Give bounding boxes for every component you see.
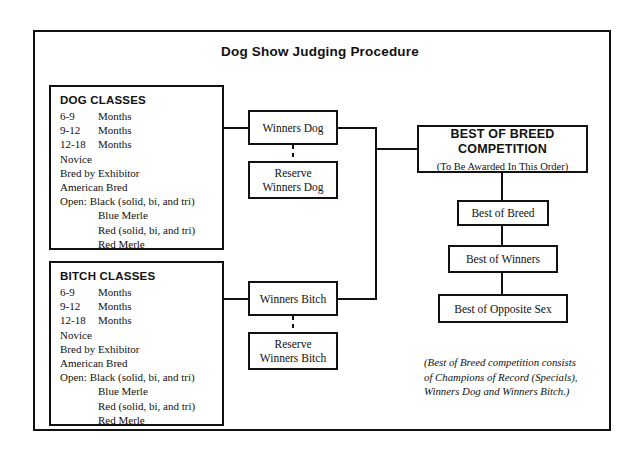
bitch-classes-item-label: Months (98, 286, 132, 298)
dog-classes-header: DOG CLASSES (60, 94, 213, 106)
bitch-classes-item-label: American Bred (60, 357, 128, 369)
dog-classes-item: 9-12Months (60, 123, 213, 137)
bitch-classes-header: BITCH CLASSES (60, 270, 213, 282)
page-title: Dog Show Judging Procedure (0, 44, 640, 59)
bitch-classes-item: Bred by Exhibitor (60, 342, 213, 356)
dog-classes-item-label: Months (98, 138, 132, 150)
connector-winners-dog-to-trunk (338, 127, 377, 129)
best-of-breed-box: Best of Breed (457, 200, 549, 226)
dog-classes-open-sub: Red (solid, bi, and tri) (60, 223, 213, 237)
best-of-winners-label: Best of Winners (466, 252, 540, 266)
bitch-classes-item-label: Months (98, 314, 132, 326)
reserve-winners-dog-label-line1: Reserve (262, 166, 323, 180)
connector-dog-classes-to-winners-dog (224, 127, 249, 129)
dog-classes-item-label: Bred by Exhibitor (60, 167, 139, 179)
connector-winners-bitch-to-reserve (292, 316, 294, 332)
dog-classes-item-age: 9-12 (60, 123, 98, 137)
dog-classes-item: 12-18Months (60, 137, 213, 151)
dog-classes-open-sub: Blue Merle (60, 208, 213, 222)
connector-bitch-classes-to-winners-bitch (224, 298, 249, 300)
dog-classes-item: Bred by Exhibitor (60, 166, 213, 180)
reserve-winners-bitch-label-line1: Reserve (260, 337, 326, 351)
connector-winners-bitch-to-trunk (338, 298, 377, 300)
bitch-classes-open-sub: Red (solid, bi, and tri) (60, 399, 213, 413)
reserve-winners-bitch-label-line2: Winners Bitch (260, 351, 326, 365)
dog-classes-item: American Bred (60, 180, 213, 194)
connector-bobc-to-best-of-breed (501, 173, 503, 200)
best-of-opposite-sex-label: Best of Opposite Sex (454, 302, 551, 316)
bob-title-line1: BEST OF BREED (451, 127, 555, 141)
winners-dog-box: Winners Dog (248, 110, 338, 145)
winners-bitch-label: Winners Bitch (260, 292, 326, 306)
bob-title-line2: COMPETITION (458, 142, 547, 156)
bitch-classes-item: American Bred (60, 356, 213, 370)
dog-classes-item-label: Months (98, 124, 132, 136)
bob-subtitle: (To Be Awarded In This Order) (437, 161, 568, 172)
reserve-winners-bitch-box: Reserve Winners Bitch (248, 332, 338, 370)
bitch-classes-item-label: Bred by Exhibitor (60, 343, 139, 355)
dog-classes-item: Novice (60, 152, 213, 166)
dog-classes-item-age: 12-18 (60, 137, 98, 151)
best-of-breed-label: Best of Breed (471, 206, 534, 220)
connector-winners-dog-to-reserve (292, 145, 294, 161)
bitch-classes-item: Novice (60, 328, 213, 342)
bitch-classes-open: Open: Black (solid, bi, and tri) (60, 370, 213, 384)
bitch-classes-item-label: Novice (60, 329, 92, 341)
bitch-classes-item-age: 9-12 (60, 299, 98, 313)
dog-classes-item-label: Months (98, 110, 132, 122)
bitch-classes-item-age: 12-18 (60, 313, 98, 327)
bitch-classes-open-sub: Blue Merle (60, 384, 213, 398)
dog-classes-item-label: Novice (60, 153, 92, 165)
dog-classes-open-sub: Red Merle (60, 237, 213, 251)
bitch-classes-item: 12-18Months (60, 313, 213, 327)
diagram-canvas: Dog Show Judging Procedure DOG CLASSES 6… (0, 0, 640, 455)
connector-best-of-breed-to-best-of-winners (501, 226, 503, 245)
best-of-winners-box: Best of Winners (448, 245, 558, 273)
dog-classes-box: DOG CLASSES 6-9Months 9-12Months 12-18Mo… (49, 85, 224, 250)
reserve-winners-dog-label-line2: Winners Dog (262, 180, 323, 194)
bitch-classes-box: BITCH CLASSES 6-9Months 9-12Months 12-18… (49, 261, 224, 426)
bitch-classes-item-label: Months (98, 300, 132, 312)
dog-classes-item-label: American Bred (60, 181, 128, 193)
bitch-classes-item: 9-12Months (60, 299, 213, 313)
bitch-classes-open-sub: Red Merle (60, 413, 213, 427)
reserve-winners-dog-box: Reserve Winners Dog (248, 161, 338, 199)
connector-best-of-winners-to-best-of-opposite-sex (501, 273, 503, 294)
connector-trunk-to-best-of-breed-competition (375, 148, 418, 150)
bitch-classes-item: 6-9Months (60, 285, 213, 299)
dog-classes-item: 6-9Months (60, 109, 213, 123)
bitch-classes-item-age: 6-9 (60, 285, 98, 299)
winners-bitch-box: Winners Bitch (248, 281, 338, 316)
connector-winners-trunk-vertical (375, 127, 377, 300)
best-of-breed-competition-box: BEST OF BREED COMPETITION (To Be Awarded… (417, 125, 588, 173)
dog-classes-item-age: 6-9 (60, 109, 98, 123)
footnote-text: (Best of Breed competition consists of C… (424, 355, 609, 399)
best-of-opposite-sex-box: Best of Opposite Sex (438, 294, 568, 323)
dog-classes-open: Open: Black (solid, bi, and tri) (60, 194, 213, 208)
winners-dog-label: Winners Dog (262, 121, 323, 135)
